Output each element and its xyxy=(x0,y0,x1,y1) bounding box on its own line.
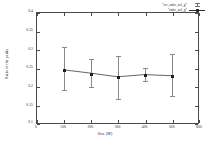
x-tick xyxy=(199,120,200,123)
data-point xyxy=(63,69,66,72)
error-bar-cap xyxy=(116,99,121,100)
x-axis-label: Size (M) xyxy=(0,133,210,137)
x-tick-label: 0 xyxy=(26,126,46,130)
y-tick-label: 0.35 xyxy=(11,29,33,33)
legend: "err_ratio_sol_g" "ratio_sol_g" xyxy=(160,2,207,14)
x-tick-label: 200 xyxy=(80,126,100,130)
y-tick-label: 0.2 xyxy=(11,85,33,89)
x-tick-label: 600 xyxy=(189,126,209,130)
data-point xyxy=(171,75,174,78)
legend-item: "err_ratio_sol_g" xyxy=(162,3,205,8)
plot-area xyxy=(36,12,199,124)
error-bar-cap xyxy=(89,87,94,88)
chart-canvas: 0.4 0.35 0.3 0.25 0.2 0.15 0.1 0 100 200… xyxy=(0,0,210,143)
legend-label: "err_ratio_sol_g" xyxy=(162,4,187,8)
legend-label: "ratio_sol_g" xyxy=(168,9,187,13)
data-points-layer xyxy=(37,13,198,123)
error-bar-cap xyxy=(143,81,148,82)
y-tick xyxy=(37,124,40,125)
error-bar-cap xyxy=(89,59,94,60)
data-point xyxy=(144,74,147,77)
y-tick xyxy=(195,124,198,125)
error-bar-cap xyxy=(116,56,121,57)
error-bar-cap xyxy=(170,96,175,97)
data-point xyxy=(90,73,93,76)
error-bar-cap xyxy=(143,68,148,69)
y-tick-label: 0.3 xyxy=(11,48,33,52)
legend-swatch-errorbars xyxy=(189,3,205,7)
x-tick-label: 100 xyxy=(53,126,73,130)
x-tick-label: 300 xyxy=(108,126,128,130)
error-bar-cap xyxy=(62,47,67,48)
x-tick-label: 500 xyxy=(162,126,182,130)
data-point xyxy=(117,76,120,79)
legend-swatch-linespoints xyxy=(189,9,205,13)
y-axis-label: Ratio of the peaks xyxy=(6,34,10,94)
y-tick-label: 0.1 xyxy=(11,121,33,125)
legend-item: "ratio_sol_g" xyxy=(162,9,205,14)
y-tick-label: 0.4 xyxy=(11,10,33,14)
error-bar-cap xyxy=(170,54,175,55)
y-tick-label: 0.25 xyxy=(11,66,33,70)
x-tick-label: 400 xyxy=(135,126,155,130)
error-bar-cap xyxy=(62,90,67,91)
y-tick-label: 0.15 xyxy=(11,104,33,108)
